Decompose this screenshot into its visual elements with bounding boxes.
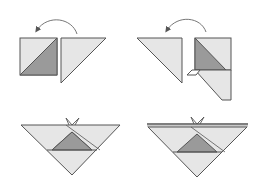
small-tab — [187, 70, 200, 75]
fold-arrow-icon — [37, 20, 77, 34]
step-3 — [21, 118, 120, 175]
left-triangle — [137, 38, 182, 83]
lower-flap — [195, 70, 231, 100]
step-1 — [20, 20, 106, 83]
right-triangle — [61, 38, 106, 83]
v-notch — [191, 117, 204, 124]
step-4 — [147, 117, 248, 177]
step-2 — [137, 19, 231, 100]
origami-diagram — [0, 0, 260, 193]
v-notch — [66, 118, 79, 125]
diagram-svg — [0, 0, 260, 193]
fold-arrow-icon — [167, 19, 206, 32]
